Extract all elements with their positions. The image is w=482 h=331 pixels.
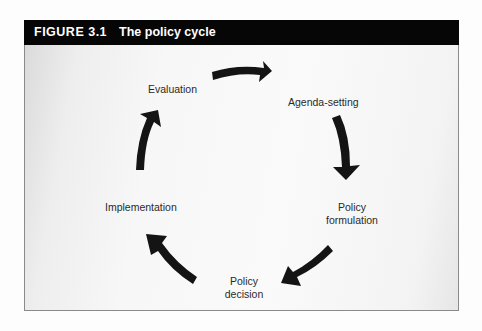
label-policy-decision: Policy decision: [219, 275, 269, 301]
label-agenda-setting: Agenda-setting: [288, 96, 359, 109]
arrow-decision-to-implementation-icon: [146, 234, 197, 284]
label-implementation: Implementation: [105, 201, 177, 214]
label-evaluation: Evaluation: [148, 83, 197, 96]
label-policy-decision-line1: Policy: [219, 275, 269, 288]
label-policy-formulation-line1: Policy: [322, 201, 382, 214]
label-policy-formulation-line2: formulation: [322, 214, 382, 227]
label-policy-decision-line2: decision: [219, 288, 269, 301]
arrow-evaluation-to-agenda-icon: [212, 61, 272, 82]
arrow-agenda-to-formulation-icon: [332, 115, 360, 180]
arrow-implementation-to-evaluation-icon: [136, 110, 161, 170]
arrow-formulation-to-decision-icon: [281, 245, 333, 286]
label-policy-formulation: Policy formulation: [322, 201, 382, 227]
